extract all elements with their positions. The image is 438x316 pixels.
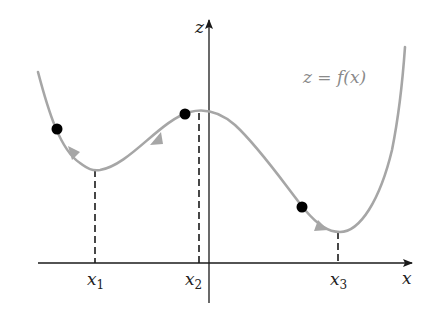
- x2-label: x2: [185, 269, 202, 292]
- x1-label: x1: [87, 269, 104, 292]
- curve-equation-label: z = f(x): [302, 67, 366, 87]
- x-axis-label: x: [402, 268, 412, 288]
- starting-points: [52, 109, 308, 213]
- x3-label: x3: [330, 269, 347, 292]
- dashed-guides: [95, 113, 338, 263]
- start-point-near-max: [180, 109, 191, 120]
- descent-arrows: [68, 132, 328, 231]
- start-point-right: [297, 202, 308, 213]
- start-point-left: [52, 124, 63, 135]
- z-axis-label: z: [194, 17, 205, 37]
- function-diagram: z x x1 x2 x3 z = f(x): [0, 0, 438, 316]
